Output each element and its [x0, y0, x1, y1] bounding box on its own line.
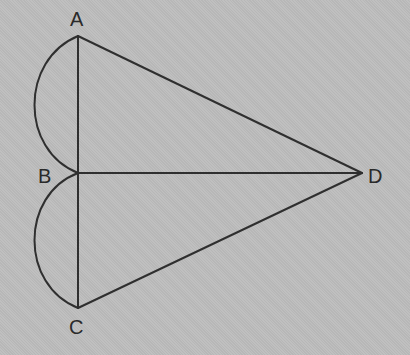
label-D: D [368, 165, 382, 187]
segment-CD [78, 173, 362, 308]
segment-AD [78, 36, 362, 173]
label-A: A [70, 8, 84, 30]
arc-BC [35, 173, 79, 308]
diagram-canvas: A B C D [0, 0, 410, 355]
geometry-figure: A B C D [0, 0, 410, 355]
label-B: B [38, 165, 51, 187]
label-C: C [69, 316, 83, 338]
arc-AB [35, 36, 79, 173]
